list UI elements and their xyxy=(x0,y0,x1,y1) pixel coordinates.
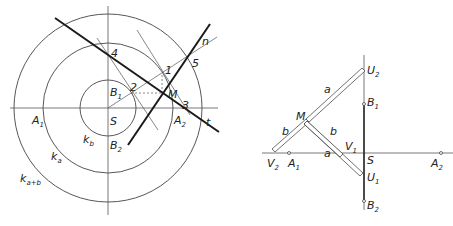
tangent-line-t xyxy=(55,18,219,132)
label-V1: V1 xyxy=(345,140,357,155)
label-B2: B2 xyxy=(110,139,123,154)
point-A2 xyxy=(440,152,443,155)
label-k-b: kb xyxy=(83,133,94,148)
line-n xyxy=(108,37,217,108)
label-M: M xyxy=(168,88,178,101)
label-k-a-plus-b: ka+b xyxy=(20,172,42,187)
strip-left-b xyxy=(272,119,309,152)
normal-line xyxy=(128,24,210,145)
label-b-left: b xyxy=(282,125,289,138)
label-point-2: 2 xyxy=(130,81,137,94)
diagram-canvas: S A1 A2 B1 B2 M 1 2 3 4 5 n t kb ka ka+b… xyxy=(0,0,453,226)
label-V2: V2 xyxy=(267,157,280,172)
label-B2-right: B2 xyxy=(367,199,380,214)
point-A1 xyxy=(288,152,291,155)
label-S: S xyxy=(110,115,117,128)
label-M-right: M xyxy=(296,110,306,123)
label-A2: A2 xyxy=(173,114,187,129)
label-a-upper: a xyxy=(324,83,331,96)
label-A2-right: A2 xyxy=(430,157,444,172)
label-A1-right: A1 xyxy=(287,157,300,172)
label-point-1: 1 xyxy=(165,64,172,77)
label-b-right: b xyxy=(330,125,337,138)
label-a-lower: a xyxy=(324,147,331,160)
label-S-right: S xyxy=(367,154,374,167)
left-figure: S A1 A2 B1 B2 M 1 2 3 4 5 n t kb ka ka+b xyxy=(10,6,219,215)
point-B1 xyxy=(363,103,366,106)
point-B2 xyxy=(363,200,366,203)
label-A1: A1 xyxy=(31,114,44,129)
strip-upper-a xyxy=(306,68,365,122)
label-point-4: 4 xyxy=(111,47,118,60)
label-n: n xyxy=(202,35,209,48)
label-B1-right: B1 xyxy=(367,96,379,111)
label-point-5: 5 xyxy=(192,57,199,70)
label-point-3: 3 xyxy=(182,99,189,112)
label-B1: B1 xyxy=(110,86,122,101)
right-figure: U2 U1 B1 B2 M S V1 V2 A1 A2 a a b b xyxy=(262,55,453,214)
label-U1: U1 xyxy=(367,171,380,186)
label-U2: U2 xyxy=(367,64,380,79)
label-t: t xyxy=(206,116,211,129)
